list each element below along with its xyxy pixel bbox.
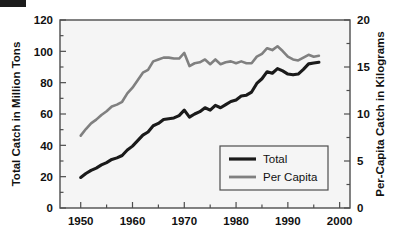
x-tick-label: 2000: [327, 215, 353, 227]
x-tick-label: 1970: [171, 215, 197, 227]
legend-label-per-capita: Per Capita: [263, 171, 318, 183]
y2-tick-label: 0: [357, 202, 363, 214]
y2-tick-label: 20: [357, 14, 370, 26]
y2-axis-title: Per-Capita Catch in Kilograms: [374, 31, 386, 197]
y-tick-label: 120: [34, 14, 53, 26]
fisheries-catch-line-chart: 195019601970198019902000 020406080100120…: [0, 0, 399, 244]
x-tick-label: 1960: [120, 215, 146, 227]
y-tick-label: 20: [40, 171, 53, 183]
y-axis-title: Total Catch in Million Tons: [10, 42, 22, 187]
corner-artifact-mark: [0, 0, 26, 7]
y2-tick-label: 10: [357, 108, 370, 120]
y2-tick-label: 5: [357, 155, 364, 167]
x-tick-label: 1990: [275, 215, 301, 227]
chart-figure: 195019601970198019902000 020406080100120…: [0, 0, 399, 244]
y-tick-label: 0: [47, 202, 53, 214]
y-tick-label: 100: [34, 46, 53, 58]
y-tick-label: 40: [40, 140, 53, 152]
legend-label-total: Total: [263, 153, 287, 165]
y-tick-label: 80: [40, 77, 53, 89]
x-tick-label: 1950: [68, 215, 94, 227]
y2-tick-label: 15: [357, 61, 370, 73]
y-tick-label: 60: [40, 108, 53, 120]
x-tick-label: 1980: [223, 215, 249, 227]
chart-legend[interactable]: Total Per Capita: [220, 146, 328, 190]
